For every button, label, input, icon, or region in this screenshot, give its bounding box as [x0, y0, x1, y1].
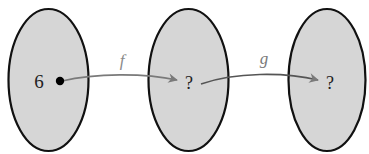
element-codomain-label: ?	[326, 73, 334, 93]
element-dot	[56, 77, 64, 85]
composition-diagram: 6 ? ? f g	[0, 0, 369, 154]
element-intermediate-label: ?	[185, 73, 193, 93]
function-g-label: g	[260, 49, 269, 68]
element-domain-label: 6	[34, 71, 44, 92]
function-f-label: f	[120, 51, 127, 70]
set-domain	[9, 9, 89, 151]
